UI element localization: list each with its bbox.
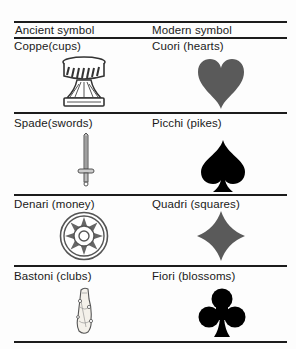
ancient-label-clubs: Bastoni (clubs): [14, 270, 92, 283]
spade-shape: [201, 140, 245, 192]
sword-icon: [77, 133, 95, 187]
table-top-rule: [14, 21, 287, 23]
modern-label-blossoms: Fiori (blossoms): [152, 270, 235, 283]
coin-icon: [59, 211, 109, 261]
heart-shape: [198, 59, 244, 109]
table-bottom-rule: [14, 341, 287, 343]
heart-icon: [196, 58, 246, 110]
ancient-label-swords: Spade(swords): [14, 117, 93, 130]
ancient-label-cups: Coppe(cups): [14, 40, 81, 53]
modern-label-hearts: Cuori (hearts): [152, 40, 224, 53]
club-icon: [198, 288, 246, 338]
modern-label-squares: Quadri (squares): [152, 198, 240, 211]
ancient-label-money: Denari (money): [14, 198, 95, 211]
header-ancient-symbol: Ancient symbol: [15, 24, 94, 37]
modern-label-pikes: Picchi (pikes): [152, 117, 222, 130]
header-rule: [14, 37, 287, 39]
row-rule-2: [14, 194, 287, 196]
header-modern-symbol: Modern symbol: [152, 24, 232, 37]
cup-icon: [61, 56, 107, 108]
diamond-shape: [197, 211, 245, 261]
row-rule-1: [14, 112, 287, 114]
diamond-icon: [197, 211, 245, 261]
baton-icon: [74, 287, 96, 335]
club-shape: [199, 289, 246, 338]
row-rule-3: [14, 265, 287, 267]
spade-icon: [201, 140, 245, 192]
